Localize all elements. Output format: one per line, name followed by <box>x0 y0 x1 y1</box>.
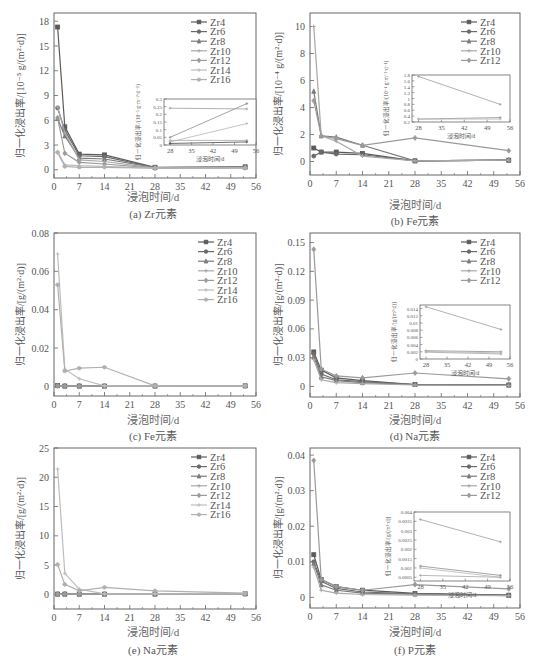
svg-text:14: 14 <box>358 400 368 411</box>
svg-text:49: 49 <box>489 400 499 411</box>
svg-text:0.003: 0.003 <box>401 529 413 534</box>
svg-text:7: 7 <box>334 611 339 622</box>
svg-text:18: 18 <box>39 16 49 27</box>
svg-text:3: 3 <box>44 140 49 151</box>
y-axis-label: 归一化浸出率/[g/(m²·d)] <box>14 263 27 366</box>
y-axis-ticks: 0510152025 <box>39 445 58 600</box>
svg-text:0.01: 0.01 <box>288 556 306 567</box>
x-axis-ticks: 0714212835424956 <box>308 604 526 622</box>
svg-text:42: 42 <box>463 178 473 189</box>
svg-text:0.15: 0.15 <box>153 120 162 125</box>
svg-text:35: 35 <box>440 583 447 590</box>
svg-text:0.09: 0.09 <box>288 295 306 306</box>
svg-text:56: 56 <box>515 400 525 411</box>
legend: Zr4Zr6Zr8Zr10Zr12Zr14Zr16 <box>191 17 231 86</box>
inset-chart: 28354249560.20.40.60.811.21.41.61.8浸泡时间/… <box>382 61 514 140</box>
chart-panel-e: 07142128354249560510152025归一化浸出率/[g/(m²·… <box>0 445 270 670</box>
x-axis-label-d: 浸泡时间/d <box>280 411 541 427</box>
svg-text:42: 42 <box>461 124 468 131</box>
svg-text:0: 0 <box>44 381 49 392</box>
x-axis-ticks: 0714212835424956 <box>52 392 262 410</box>
svg-text:28: 28 <box>423 361 430 368</box>
svg-text:7: 7 <box>77 612 82 623</box>
svg-text:7: 7 <box>334 178 339 189</box>
svg-text:归一化浸出率/(10⁻⁵ g·m⁻²·d⁻¹): 归一化浸出率/(10⁻⁵ g·m⁻²·d⁻¹) <box>134 84 142 160</box>
svg-text:0.03: 0.03 <box>288 352 306 363</box>
legend: Zr4Zr6Zr8Zr10Zr12 <box>461 452 500 501</box>
x-axis-label-a: 浸泡时间/d <box>18 188 288 204</box>
legend: Zr4Zr6Zr8Zr10Zr12 <box>461 237 500 286</box>
svg-text:14: 14 <box>358 611 368 622</box>
svg-text:0.03: 0.03 <box>288 485 306 496</box>
svg-text:56: 56 <box>251 399 261 410</box>
chart-svg-b: 07142128354249560246810归一化浸出率/[10⁻⁴ g/(m… <box>270 0 541 200</box>
svg-text:0.0035: 0.0035 <box>398 519 412 524</box>
svg-text:10: 10 <box>295 21 305 32</box>
x-axis-label-b: 浸泡时间/d <box>280 196 541 212</box>
svg-text:9: 9 <box>44 90 49 101</box>
plot-frame <box>54 13 256 178</box>
y-axis-label: 归一化浸出率/[10⁻⁵ g/(m²·d)] <box>14 33 27 157</box>
svg-text:42: 42 <box>462 583 469 590</box>
svg-text:0.008: 0.008 <box>407 328 419 333</box>
svg-text:49: 49 <box>484 583 491 590</box>
x-axis-label-c: 浸泡时间/d <box>18 411 288 427</box>
svg-text:14: 14 <box>358 178 368 189</box>
svg-text:0: 0 <box>160 143 163 148</box>
svg-text:0.06: 0.06 <box>32 266 50 277</box>
svg-text:12: 12 <box>39 65 49 76</box>
legend: Zr4Zr6Zr8Zr10Zr12Zr14Zr16 <box>191 452 231 521</box>
caption-d: (d) Na元素 <box>280 427 541 443</box>
svg-text:42: 42 <box>201 612 211 623</box>
svg-text:0.0015: 0.0015 <box>398 557 412 562</box>
svg-text:归一化浸出率/[g/(m²·d)]: 归一化浸出率/[g/(m²·d)] <box>384 517 392 577</box>
svg-text:0.001: 0.001 <box>401 566 413 571</box>
svg-text:0.06: 0.06 <box>288 323 306 334</box>
inset-chart: 283542495600.0020.0040.0060.0080.010.012… <box>390 302 514 377</box>
legend: Zr4Zr6Zr8Zr10Zr12Zr14Zr16 <box>198 237 238 306</box>
svg-text:4: 4 <box>300 102 305 113</box>
svg-text:浸泡时间/d: 浸泡时间/d <box>447 132 476 140</box>
svg-text:0.02: 0.02 <box>288 521 306 532</box>
legend-label: Zr12 <box>480 55 500 66</box>
svg-text:35: 35 <box>436 178 446 189</box>
x-axis-ticks: 0714212835424956 <box>308 393 526 411</box>
chart-svg-c: 071421283542495600.020.040.060.08归一化浸出率/… <box>0 225 270 420</box>
svg-text:56: 56 <box>253 147 260 154</box>
svg-text:0: 0 <box>52 612 57 623</box>
svg-text:1.6: 1.6 <box>404 79 411 84</box>
svg-text:1: 1 <box>408 97 411 102</box>
svg-text:28: 28 <box>150 612 160 623</box>
svg-text:49: 49 <box>489 178 499 189</box>
caption-e: (e) Na元素 <box>18 641 288 657</box>
svg-text:0.04: 0.04 <box>288 450 306 461</box>
svg-text:21: 21 <box>384 178 394 189</box>
svg-text:0: 0 <box>308 400 313 411</box>
legend-label: Zr12 <box>480 275 500 286</box>
svg-text:0: 0 <box>308 611 313 622</box>
svg-text:56: 56 <box>507 361 514 368</box>
svg-text:0.25: 0.25 <box>153 105 162 110</box>
chart-svg-f: 071421283542495600.010.020.030.04归一化浸出率/… <box>270 445 541 640</box>
chart-panel-d: 071421283542495600.030.060.090.120.15归一化… <box>270 225 541 445</box>
svg-text:0: 0 <box>52 399 57 410</box>
svg-text:8: 8 <box>300 48 305 59</box>
svg-text:49: 49 <box>489 611 499 622</box>
inset-chart: 283542495600.050.10.150.20.250.3浸泡时间/d归一… <box>134 84 260 163</box>
svg-text:0: 0 <box>308 178 313 189</box>
svg-text:1.4: 1.4 <box>404 85 411 90</box>
svg-text:1.2: 1.2 <box>404 91 411 96</box>
svg-text:21: 21 <box>125 399 135 410</box>
svg-text:25: 25 <box>39 445 49 454</box>
chart-svg-d: 071421283542495600.030.060.090.120.15归一化… <box>270 225 541 420</box>
svg-text:0.0025: 0.0025 <box>398 538 412 543</box>
svg-text:42: 42 <box>210 147 217 154</box>
svg-text:21: 21 <box>384 400 394 411</box>
svg-text:42: 42 <box>465 361 472 368</box>
y-axis-ticks: 0246810 <box>295 21 314 167</box>
legend-label: Zr12 <box>480 490 500 501</box>
x-axis-label-f: 浸泡时间/d <box>280 623 541 639</box>
svg-text:0.02: 0.02 <box>32 343 50 354</box>
chart-panel-c: 071421283542495600.020.040.060.08归一化浸出率/… <box>0 225 270 445</box>
svg-text:28: 28 <box>410 611 420 622</box>
